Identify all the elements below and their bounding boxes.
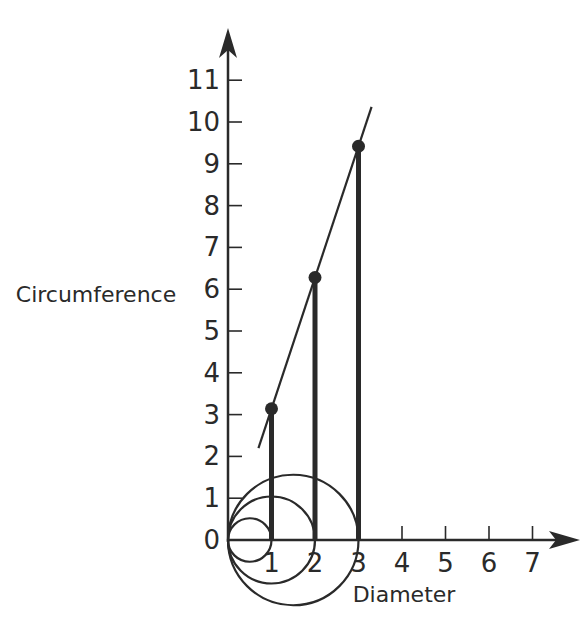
data-point	[309, 271, 322, 284]
x-tick-label: 6	[481, 548, 498, 578]
y-tick-label: 1	[203, 483, 220, 513]
y-tick-label: 10	[187, 107, 220, 137]
x-axis-title: Diameter	[353, 582, 457, 607]
data-point	[265, 402, 278, 415]
y-tick-label: 7	[203, 232, 220, 262]
y-tick-label: 9	[203, 149, 220, 179]
x-tick-label: 1	[263, 548, 280, 578]
y-tick-label: 3	[203, 400, 220, 430]
circumference-diameter-chart: 012345678910111234567DiameterCircumferen…	[0, 0, 584, 622]
x-tick-label: 3	[350, 548, 367, 578]
y-tick-label: 8	[203, 191, 220, 221]
y-tick-label: 5	[203, 316, 220, 346]
x-tick-label: 4	[394, 548, 411, 578]
x-tick-label: 7	[524, 548, 541, 578]
y-tick-label: 6	[203, 274, 220, 304]
x-tick-label: 2	[307, 548, 324, 578]
y-tick-label: 11	[187, 65, 220, 95]
y-tick-label: 4	[203, 358, 220, 388]
x-tick-label: 5	[437, 548, 454, 578]
y-tick-label: 2	[203, 441, 220, 471]
data-point	[352, 140, 365, 153]
y-tick-label: 0	[203, 525, 220, 555]
y-axis-title: Circumference	[16, 282, 176, 307]
